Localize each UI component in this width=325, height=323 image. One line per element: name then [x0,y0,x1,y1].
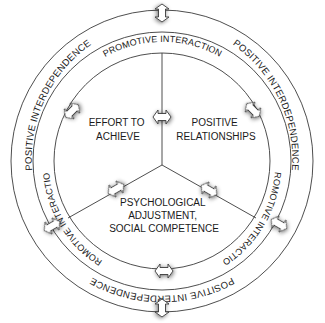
double-arrow-icon [61,100,84,123]
double-arrow-icon [155,4,169,22]
diagram-canvas: POSITIVE INTERDEPENDENCE POSITIVE INTERD… [0,0,325,323]
double-arrow-icon [155,264,173,278]
outer-ring-label-right: POSITIVE INTERDEPENDENCE [231,37,301,171]
outer-ring-label-left: POSITIVE INTERDEPENDENCE [23,37,93,171]
cooperative-learning-diagram: POSITIVE INTERDEPENDENCE POSITIVE INTERD… [0,0,325,323]
sector-psychological-label: PSYCHOLOGICAL ADJUSTMENT, SOCIAL COMPETE… [109,197,219,234]
sector-relationships-label: POSITIVE RELATIONSHIPS [176,117,256,142]
double-arrow-icon [268,213,291,234]
inner-ring-label-top: PROMOTIVE INTERACTION [101,34,223,59]
sector-effort-label: EFFORT TO ACHIEVE [89,117,148,142]
